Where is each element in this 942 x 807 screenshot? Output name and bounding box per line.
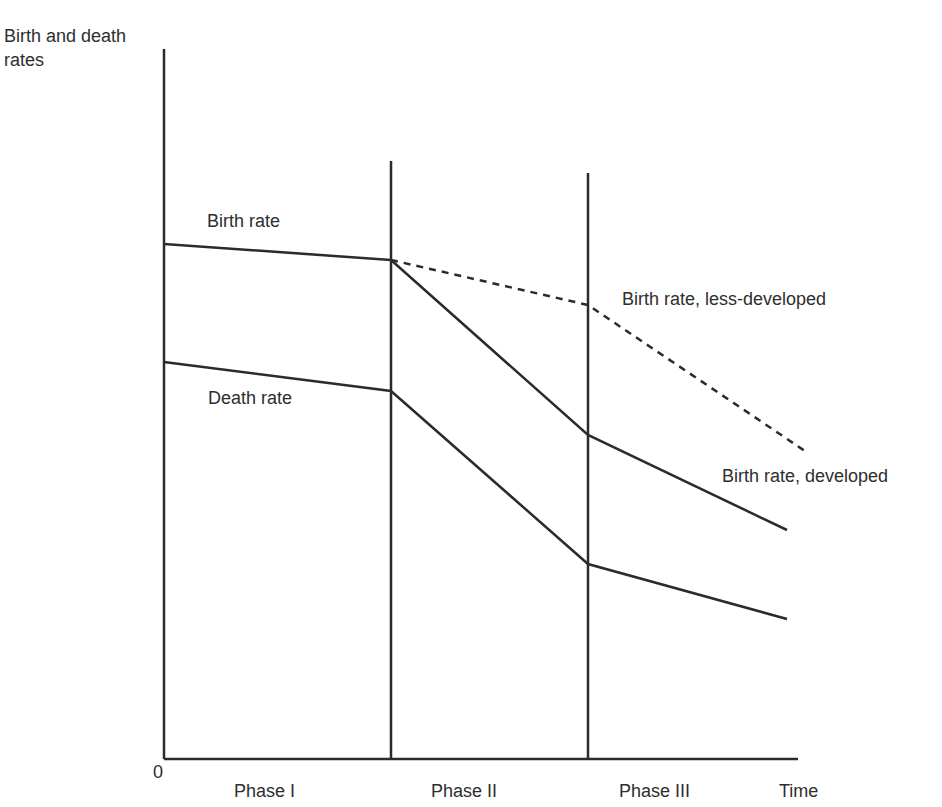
- birth-rate-developed-label: Birth rate, developed: [722, 466, 888, 487]
- time-axis-label: Time: [779, 781, 818, 802]
- birth-rate-label: Birth rate: [207, 211, 280, 232]
- origin-label: 0: [153, 762, 163, 783]
- phase-3-label: Phase III: [619, 781, 690, 802]
- death-rate-label: Death rate: [208, 388, 292, 409]
- birth-rate-line: [164, 244, 391, 260]
- phase-1-label: Phase I: [234, 781, 295, 802]
- y-axis-label-line1: Birth and death: [4, 26, 126, 47]
- y-axis-label-line2: rates: [4, 50, 44, 71]
- phase-2-label: Phase II: [431, 781, 497, 802]
- birth-rate-less-developed-label: Birth rate, less-developed: [622, 289, 826, 310]
- demographic-transition-diagram: [0, 0, 942, 807]
